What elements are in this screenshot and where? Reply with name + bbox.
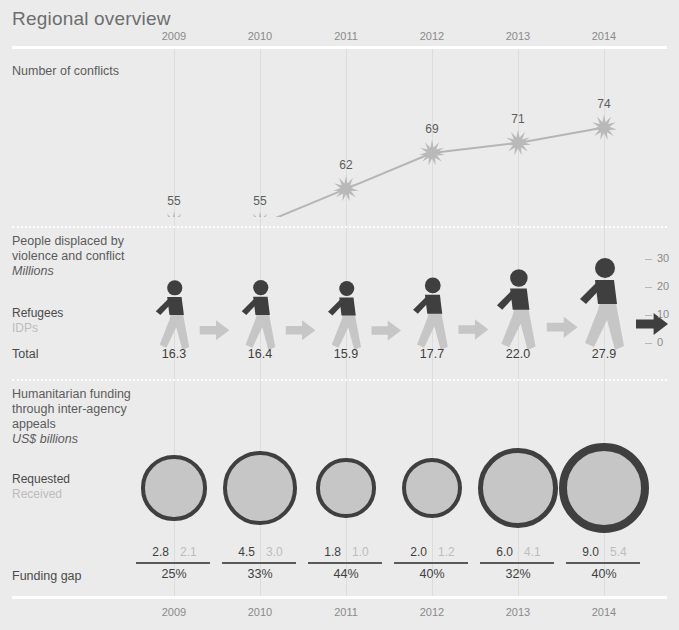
funding-gap-value-2009: 25%: [139, 567, 209, 581]
section-divider-1: [12, 226, 667, 228]
legend-requested: Requested: [12, 472, 70, 487]
funding-label-line1: Humanitarian funding: [12, 387, 131, 401]
received-value-2012: 1.2: [438, 545, 472, 559]
funding-bubble-2010: [223, 451, 297, 525]
year-label-bottom-2013: 2013: [475, 606, 561, 618]
year-label-top-2013: 2013: [475, 30, 561, 42]
funding-gap-value-2012: 40%: [397, 567, 467, 581]
section-divider-2: [12, 379, 667, 381]
walking-figure-2014: [580, 258, 624, 350]
total-value-2011: 15.9: [316, 347, 376, 361]
funding-legend: Requested Received: [12, 472, 70, 502]
funding-gap-value-2013: 32%: [483, 567, 553, 581]
funding-gap-value-2010: 33%: [225, 567, 295, 581]
flow-arrow-1: [286, 320, 316, 340]
axis-tick-label-0: 0: [657, 336, 679, 348]
year-label-top-2011: 2011: [303, 30, 389, 42]
conflicts-line: [174, 128, 604, 217]
conflict-marker-2013: [505, 130, 531, 155]
conflict-value-2011: 62: [326, 158, 366, 172]
amount-divider-2011: [308, 562, 382, 564]
requested-value-2013: 6.0: [479, 545, 513, 559]
funding-section-label: Humanitarian funding through inter-agenc…: [12, 387, 131, 447]
amount-divider-2010: [222, 562, 296, 564]
conflict-value-2009: 55: [154, 194, 194, 208]
figure-head: [595, 258, 615, 278]
total-value-2013: 22.0: [488, 347, 548, 361]
requested-value-2012: 2.0: [393, 545, 427, 559]
total-value-2012: 17.7: [402, 347, 462, 361]
figure-legs-idps: [417, 309, 448, 350]
walking-figure-2012: [413, 278, 448, 350]
conflict-marker-2011: [333, 176, 359, 201]
figure-legs-idps: [160, 311, 190, 350]
legend-received: Received: [12, 487, 70, 502]
conflict-marker-2009: [161, 212, 187, 218]
flow-arrow-0: [200, 320, 230, 340]
axis-tick-label-30: 30: [657, 252, 679, 264]
requested-value-2010: 4.5: [221, 545, 255, 559]
amount-divider-2013: [480, 562, 554, 564]
axis-tick-mark-30: [645, 259, 652, 260]
conflict-value-2012: 69: [412, 122, 452, 136]
axis-tick-mark-0: [645, 343, 652, 344]
conflicts-line-chart: [0, 52, 679, 217]
funding-bubble-2013: [478, 448, 558, 528]
funding-bubble-2011: [316, 458, 375, 517]
walking-figure-2011: [328, 281, 361, 350]
axis-tick-label-10: 10: [657, 308, 679, 320]
amount-divider-2014: [566, 562, 640, 564]
conflict-value-2013: 71: [498, 112, 538, 126]
funding-gap-value-2014: 40%: [569, 567, 639, 581]
year-label-bottom-2010: 2010: [217, 606, 303, 618]
walking-figure-2010: [242, 280, 275, 350]
year-label-bottom-2009: 2009: [131, 606, 217, 618]
received-value-2010: 3.0: [266, 545, 300, 559]
funding-gap-label: Funding gap: [12, 569, 82, 583]
funding-unit: US$ billions: [12, 432, 78, 446]
year-label-bottom-2014: 2014: [561, 606, 647, 618]
funding-bubble-2009: [141, 455, 206, 520]
funding-bubble-2014: [559, 443, 649, 533]
figure-head: [253, 280, 268, 295]
conflict-value-2010: 55: [240, 194, 280, 208]
flow-arrow-3: [458, 319, 488, 339]
total-value-2010: 16.4: [230, 347, 290, 361]
requested-value-2014: 9.0: [565, 545, 599, 559]
year-label-top-2014: 2014: [561, 30, 647, 42]
walking-figure-2009: [156, 280, 189, 350]
flow-arrow-4: [547, 317, 578, 338]
year-label-bottom-2012: 2012: [389, 606, 475, 618]
axis-tick-mark-10: [645, 315, 652, 316]
footer-divider: [12, 596, 667, 599]
header-divider: [12, 46, 667, 49]
received-value-2013: 4.1: [524, 545, 558, 559]
year-label-top-2010: 2010: [217, 30, 303, 42]
figure-head: [425, 278, 441, 294]
year-label-top-2012: 2012: [389, 30, 475, 42]
funding-gap-value-2011: 44%: [311, 567, 381, 581]
funding-label-line3: appeals: [12, 417, 56, 431]
figure-legs-idps: [332, 311, 361, 350]
conflict-value-2014: 74: [584, 97, 624, 111]
conflict-marker-2014: [591, 115, 617, 140]
received-value-2011: 1.0: [352, 545, 386, 559]
received-value-2009: 2.1: [180, 545, 214, 559]
conflict-marker-2010: [247, 212, 273, 218]
figure-legs-idps: [501, 304, 535, 350]
figure-head: [339, 281, 354, 296]
year-label-bottom-2011: 2011: [303, 606, 389, 618]
axis-tick-label-20: 20: [657, 280, 679, 292]
total-value-2009: 16.3: [144, 347, 204, 361]
figure-head: [167, 280, 182, 295]
walking-figure-2013: [497, 269, 536, 350]
figure-head: [510, 269, 528, 287]
displacement-pictogram-chart: [0, 240, 679, 350]
page-title: Regional overview: [12, 8, 171, 30]
funding-bubble-2012: [402, 458, 462, 518]
year-label-top-2009: 2009: [131, 30, 217, 42]
figure-legs-idps: [585, 298, 624, 350]
flow-arrow-2: [372, 320, 402, 340]
requested-value-2009: 2.8: [135, 545, 169, 559]
figure-legs-idps: [246, 310, 276, 350]
